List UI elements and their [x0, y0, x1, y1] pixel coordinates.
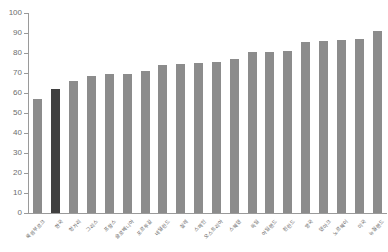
bar-series: [29, 13, 386, 213]
y-tick-label: 40: [0, 129, 22, 137]
bar: [105, 74, 114, 213]
y-tick-mark: [24, 93, 28, 94]
y-tick-label: 90: [0, 29, 22, 37]
bar: [373, 31, 382, 213]
bar: [33, 99, 42, 213]
bar: [51, 89, 60, 213]
bar: [337, 40, 346, 213]
bar: [176, 64, 185, 213]
bar: [230, 59, 239, 213]
y-tick-mark: [24, 173, 28, 174]
y-tick-mark: [24, 33, 28, 34]
bar: [248, 52, 257, 213]
bar: [355, 39, 364, 213]
bar: [319, 41, 328, 213]
bar-chart: 0102030405060708090100 룩셈부르크한국헝가리그리스프랑스슬…: [0, 0, 388, 252]
y-tick-mark: [24, 133, 28, 134]
x-axis-label: 룩셈부르크: [5, 218, 46, 252]
y-tick-mark: [24, 53, 28, 54]
bar: [141, 71, 150, 213]
y-tick-label: 0: [0, 209, 22, 217]
x-axis-labels: 룩셈부르크한국헝가리그리스프랑스슬로베니아포르투갈네덜란드칠레스페인오스트리아스…: [29, 214, 386, 252]
y-tick-mark: [24, 13, 28, 14]
bar: [212, 62, 221, 213]
y-tick-mark: [24, 193, 28, 194]
y-tick-label: 100: [0, 9, 22, 17]
bar: [194, 63, 203, 213]
y-tick-label: 80: [0, 49, 22, 57]
y-tick-label: 10: [0, 189, 22, 197]
bar: [283, 51, 292, 213]
bar: [69, 81, 78, 213]
y-tick-label: 70: [0, 69, 22, 77]
y-tick-mark: [24, 213, 28, 214]
y-tick-mark: [24, 113, 28, 114]
y-tick-label: 20: [0, 169, 22, 177]
bar: [87, 76, 96, 213]
bar: [123, 74, 132, 213]
bar: [301, 42, 310, 213]
bar: [158, 65, 167, 213]
y-tick-mark: [24, 73, 28, 74]
y-tick-label: 50: [0, 109, 22, 117]
y-tick-label: 60: [0, 89, 22, 97]
y-tick-mark: [24, 153, 28, 154]
bar: [265, 52, 274, 213]
y-tick-label: 30: [0, 149, 22, 157]
